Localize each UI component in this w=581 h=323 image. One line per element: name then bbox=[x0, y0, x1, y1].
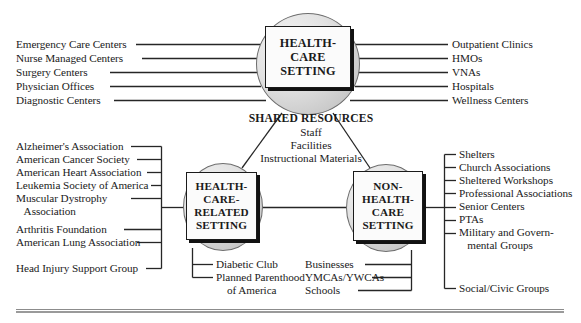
non-health-bottom-item: Businesses bbox=[305, 258, 354, 271]
shared-resources-group: SHARED RESOURCES Staff Facilities Instru… bbox=[231, 112, 391, 166]
health-care-setting-node[interactable]: HEALTH-CARESETTING bbox=[265, 26, 351, 88]
health-care-right-item: Outpatient Clinics bbox=[452, 38, 533, 51]
non-health-right-item: Sheltered Workshops bbox=[459, 174, 553, 187]
related-left-item: American Heart Association bbox=[16, 166, 141, 179]
related-left-item-cont: Association bbox=[16, 205, 76, 218]
related-bottom-item: Diabetic Club bbox=[216, 258, 278, 271]
non-health-bottom-item: YMCAs/YWCAs bbox=[305, 271, 384, 284]
related-left-item: Leukemia Society of America bbox=[16, 179, 149, 192]
non-health-right-item: Senior Centers bbox=[459, 200, 524, 213]
divider-line-top bbox=[16, 309, 564, 310]
shared-resource-item: Facilities bbox=[231, 139, 391, 152]
related-left-item: Muscular Dystrophy bbox=[16, 192, 107, 205]
divider-line-bottom bbox=[16, 311, 564, 312]
shared-resource-item: Staff bbox=[231, 126, 391, 139]
health-care-right-item: Hospitals bbox=[452, 80, 494, 93]
related-bottom-item-cont: of America bbox=[216, 284, 277, 297]
non-health-right-item: PTAs bbox=[459, 213, 483, 226]
related-bottom-item: Planned Parenthood bbox=[216, 271, 305, 284]
related-left-item: American Cancer Society bbox=[16, 153, 130, 166]
non-health-care-setting-node[interactable]: NON-HEALTH-CARESETTING bbox=[353, 171, 423, 241]
related-left-item: Arthritis Foundation bbox=[16, 223, 107, 236]
health-care-right-item: VNAs bbox=[452, 66, 480, 79]
related-left-item: Alzheimer's Association bbox=[16, 140, 123, 153]
non-health-right-item-cont: mental Groups bbox=[459, 239, 533, 252]
health-care-left-item: Surgery Centers bbox=[16, 66, 87, 79]
bottom-divider bbox=[16, 309, 564, 313]
health-care-right-item: Wellness Centers bbox=[452, 94, 528, 107]
related-left-item: Head Injury Support Group bbox=[16, 262, 138, 275]
health-care-setting-label: HEALTH-CARESETTING bbox=[280, 36, 337, 79]
non-health-right-item: Shelters bbox=[459, 148, 495, 161]
health-care-left-item: Nurse Managed Centers bbox=[16, 52, 123, 65]
health-care-right-item: HMOs bbox=[452, 52, 482, 65]
health-care-related-setting-label: HEALTH-CARE-RELATEDSETTING bbox=[194, 180, 249, 232]
health-care-left-item: Physician Offices bbox=[16, 80, 94, 93]
non-health-bottom-item: Schools bbox=[305, 284, 340, 297]
health-care-left-item: Emergency Care Centers bbox=[16, 38, 127, 51]
health-care-related-setting-node[interactable]: HEALTH-CARE-RELATEDSETTING bbox=[186, 172, 257, 240]
non-health-right-item: Church Associations bbox=[459, 161, 550, 174]
related-left-item: American Lung Association bbox=[16, 236, 140, 249]
non-health-right-item: Social/Civic Groups bbox=[459, 282, 549, 295]
diagram-canvas: HEALTH-CARESETTING HEALTH-CARE-RELATEDSE… bbox=[0, 0, 581, 323]
health-care-left-item: Diagnostic Centers bbox=[16, 94, 101, 107]
non-health-right-item: Professional Associations bbox=[459, 187, 572, 200]
non-health-care-setting-label: NON-HEALTH-CARESETTING bbox=[362, 180, 414, 232]
shared-resources-title: SHARED RESOURCES bbox=[231, 112, 391, 126]
shared-resource-item: Instructional Materials bbox=[231, 152, 391, 165]
non-health-right-item: Military and Govern- bbox=[459, 226, 554, 239]
